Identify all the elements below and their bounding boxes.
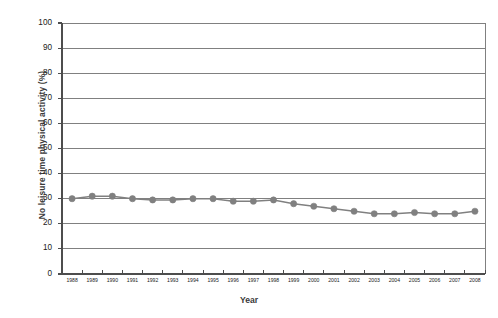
data-point-2004 [391,211,397,217]
data-point-1999 [291,201,297,207]
data-point-1993 [170,197,176,203]
data-point-1990 [109,193,115,199]
data-point-1988 [69,196,75,202]
x-tick-label-2002: 2002 [344,278,364,283]
x-tick-label-1988: 1988 [62,278,82,283]
x-tick-label-1992: 1992 [143,278,163,283]
data-point-1992 [150,197,156,203]
line-chart-plot [0,0,498,318]
y-tick-label-0: 0 [26,270,52,278]
y-tick-label-80: 80 [26,69,52,77]
y-tick-label-60: 60 [26,119,52,127]
y-tick-label-10: 10 [26,244,52,252]
x-tick-label-1996: 1996 [223,278,243,283]
y-tick-label-70: 70 [26,94,52,102]
x-tick-label-2006: 2006 [425,278,445,283]
x-tick-label-2008: 2008 [465,278,485,283]
y-tick-label-30: 30 [26,194,52,202]
y-tick-label-40: 40 [26,169,52,177]
data-point-1994 [190,196,196,202]
data-point-1991 [129,196,135,202]
data-point-1995 [210,196,216,202]
x-tick-label-1999: 1999 [284,278,304,283]
x-tick-label-1995: 1995 [203,278,223,283]
x-tick-label-1993: 1993 [163,278,183,283]
x-tick-label-2004: 2004 [384,278,404,283]
y-tick-label-100: 100 [26,19,52,27]
data-point-2001 [331,206,337,212]
x-tick-label-1994: 1994 [183,278,203,283]
data-point-2002 [351,208,357,214]
x-tick-label-1998: 1998 [263,278,283,283]
x-tick-label-2005: 2005 [404,278,424,283]
data-point-2005 [411,209,417,215]
x-tick-label-1990: 1990 [102,278,122,283]
x-tick-label-1989: 1989 [82,278,102,283]
x-tick-label-1997: 1997 [243,278,263,283]
chart-figure: No leisure time physical activity (%) Ye… [0,0,498,318]
y-tick-label-50: 50 [26,144,52,152]
y-tick-label-20: 20 [26,219,52,227]
data-point-1997 [250,198,256,204]
data-point-1998 [270,197,276,203]
data-point-2008 [472,208,478,214]
data-point-2006 [432,211,438,217]
data-point-1989 [89,193,95,199]
x-tick-label-2000: 2000 [304,278,324,283]
data-point-2003 [371,211,377,217]
x-tick-label-1991: 1991 [122,278,142,283]
y-tick-label-90: 90 [26,44,52,52]
x-tick-label-2007: 2007 [445,278,465,283]
data-point-1996 [230,198,236,204]
x-tick-label-2003: 2003 [364,278,384,283]
data-point-2007 [452,211,458,217]
data-point-2000 [311,203,317,209]
x-tick-label-2001: 2001 [324,278,344,283]
